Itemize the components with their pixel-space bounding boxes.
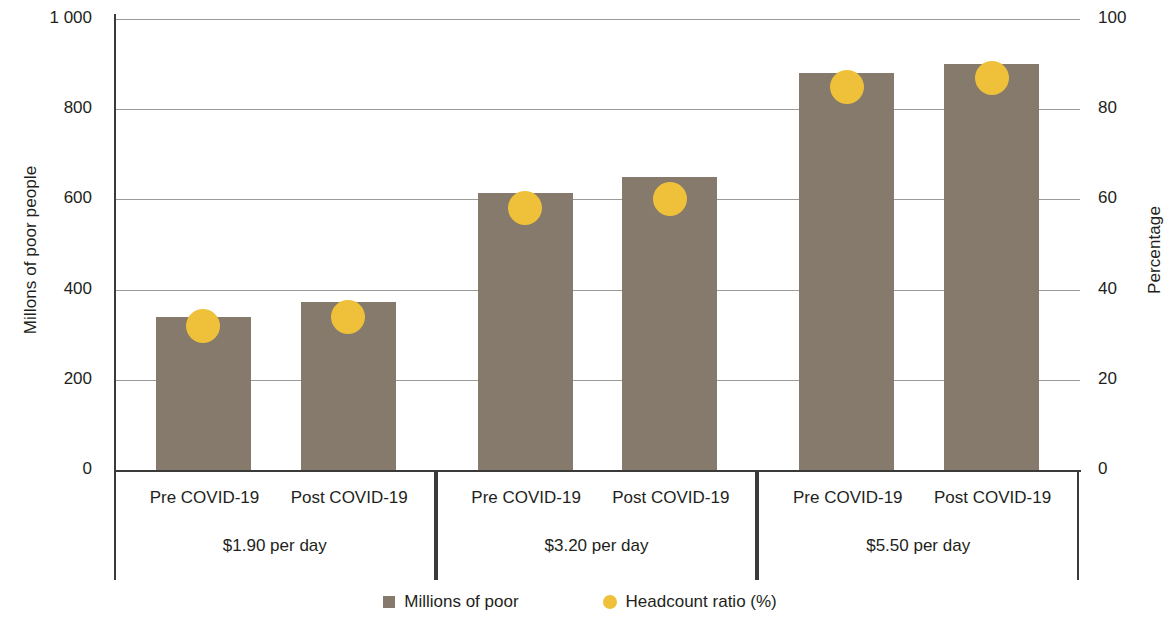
legend-label: Millions of poor xyxy=(404,592,518,612)
category-group-label: $3.20 per day xyxy=(438,536,756,556)
gridline xyxy=(115,380,1080,381)
legend-circle-icon xyxy=(603,595,617,609)
data-point xyxy=(830,70,864,104)
category-label: Pre COVID-19 xyxy=(446,488,606,508)
data-point xyxy=(508,191,542,225)
chart-legend: Millions of poorHeadcount ratio (%) xyxy=(0,592,1160,612)
y-axis-left-tick-label: 200 xyxy=(64,369,92,389)
gridline xyxy=(115,290,1080,291)
data-point xyxy=(331,300,365,334)
category-group: Pre COVID-19Post COVID-19$3.20 per day xyxy=(436,470,758,580)
category-label: Post COVID-19 xyxy=(591,488,751,508)
bar xyxy=(799,73,894,470)
data-point xyxy=(975,61,1009,95)
y-axis-left-title: Millons of poor people xyxy=(21,135,41,365)
y-axis-left-tick-label: 400 xyxy=(64,279,92,299)
gridline xyxy=(115,19,1080,20)
category-group: Pre COVID-19Post COVID-19$5.50 per day xyxy=(757,470,1079,580)
legend-square-icon xyxy=(383,596,395,608)
legend-label: Headcount ratio (%) xyxy=(626,592,777,612)
category-group-label: $1.90 per day xyxy=(116,536,434,556)
y-axis-line xyxy=(114,14,116,472)
category-label: Post COVID-19 xyxy=(913,488,1073,508)
category-label: Pre COVID-19 xyxy=(124,488,284,508)
y-axis-left-tick-label: 1 000 xyxy=(49,8,92,28)
category-band: Pre COVID-19Post COVID-19$1.90 per dayPr… xyxy=(114,470,1081,580)
data-point xyxy=(186,309,220,343)
category-label: Pre COVID-19 xyxy=(768,488,928,508)
y-axis-right-tick-label: 60 xyxy=(1098,188,1117,208)
y-axis-right-tick-label: 100 xyxy=(1098,8,1126,28)
y-axis-left-tick-label: 600 xyxy=(64,188,92,208)
gridline xyxy=(115,199,1080,200)
y-axis-right-title: Percentage xyxy=(1145,150,1165,350)
y-axis-right-tick-label: 80 xyxy=(1098,98,1117,118)
category-group: Pre COVID-19Post COVID-19$1.90 per day xyxy=(114,470,436,580)
y-axis-right-tick-label: 40 xyxy=(1098,279,1117,299)
y-axis-right-tick-label: 0 xyxy=(1098,459,1107,479)
y-axis-left-tick-label: 800 xyxy=(64,98,92,118)
category-group-label: $5.50 per day xyxy=(759,536,1077,556)
y-axis-left-tick-label: 0 xyxy=(83,459,92,479)
plot-area xyxy=(115,19,1080,470)
data-point xyxy=(653,182,687,216)
y-axis-right-tick-label: 20 xyxy=(1098,369,1117,389)
bar xyxy=(944,64,1039,470)
category-label: Post COVID-19 xyxy=(269,488,429,508)
bar xyxy=(622,177,717,470)
bar xyxy=(478,193,573,470)
legend-entry: Headcount ratio (%) xyxy=(603,592,777,612)
gridline xyxy=(115,109,1080,110)
legend-entry: Millions of poor xyxy=(383,592,518,612)
